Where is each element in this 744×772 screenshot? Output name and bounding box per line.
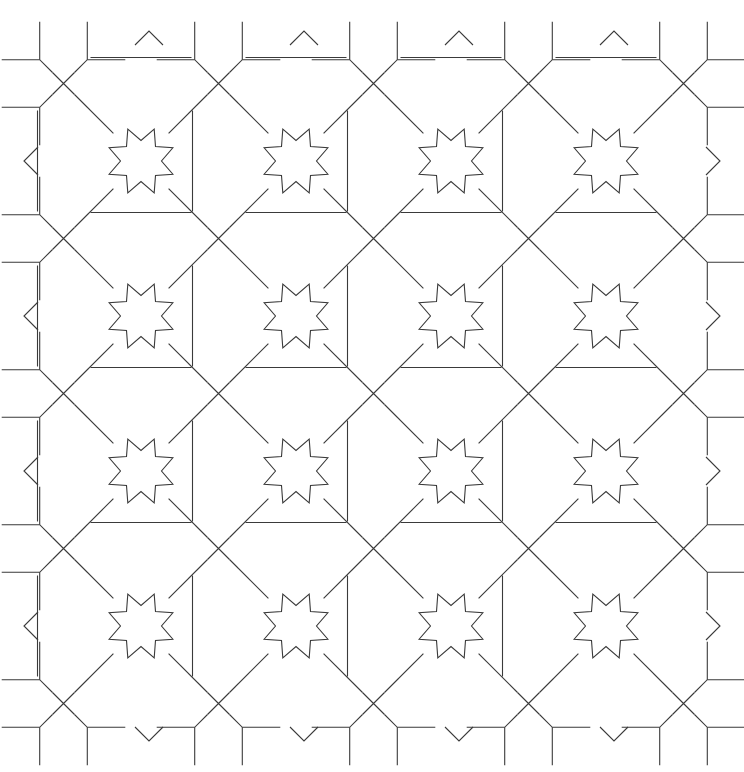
background-rect bbox=[0, 0, 744, 772]
geometric-pattern-artwork: Islamic Interlace Star Pattern Black lin… bbox=[0, 0, 744, 772]
pattern-canvas: Islamic Interlace Star Pattern Black lin… bbox=[0, 0, 744, 772]
